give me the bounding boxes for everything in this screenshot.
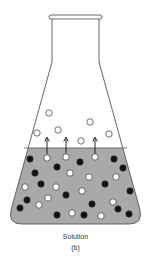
solute-particle [32, 170, 38, 176]
vapor-particle [78, 138, 84, 144]
solvent-particle [92, 154, 98, 160]
solvent-particle [53, 184, 59, 190]
solvent-particle [110, 199, 116, 205]
solvent-particle [22, 184, 28, 190]
solute-particle [127, 188, 133, 194]
vapor-particle [46, 110, 52, 116]
solute-particle [63, 192, 69, 198]
caption-label: Solution [0, 233, 151, 240]
solute-particle [81, 212, 87, 218]
solute-particle [54, 212, 60, 218]
solvent-particle [98, 213, 104, 219]
solute-particle [27, 156, 33, 162]
solute-particle [89, 201, 95, 207]
solute-particle [17, 205, 23, 211]
flask-rim [49, 15, 102, 19]
solvent-particle [86, 174, 92, 180]
vapor-particle [34, 130, 40, 136]
vapor-particle [55, 127, 61, 133]
solute-particle [115, 206, 121, 212]
solvent-particle [113, 174, 119, 180]
vapor-particle [106, 131, 112, 137]
solvent-particle [36, 202, 42, 208]
flask-diagram [0, 0, 151, 259]
vapor-particle [87, 119, 93, 125]
solvent-particle [44, 155, 50, 161]
solute-particle [111, 156, 117, 162]
solute-particle [54, 164, 60, 170]
solute-particle [102, 181, 108, 187]
solvent-particle [45, 195, 51, 201]
solute-particle [38, 181, 44, 187]
solute-particle [126, 211, 132, 217]
solute-particle [24, 197, 30, 203]
solvent-particle [63, 154, 69, 160]
solvent-particle [79, 188, 85, 194]
solute-particle [120, 165, 126, 171]
caption-sublabel: (b) [0, 244, 151, 251]
solvent-particle [69, 210, 75, 216]
solute-particle [77, 159, 83, 165]
solvent-particle [67, 170, 73, 176]
